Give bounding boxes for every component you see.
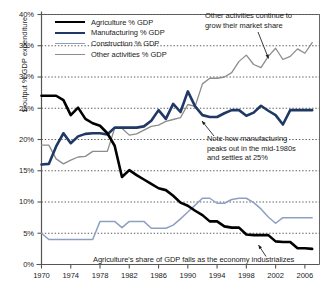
y-axis-tick-label: 40% [8, 10, 34, 19]
x-axis-tick-label: 1986 [144, 271, 174, 280]
y-axis-tick-label: 0% [8, 260, 34, 269]
annotation-manu-line3: and settles at 25% [207, 153, 296, 163]
x-axis-tick-label: 2006 [290, 271, 320, 280]
annotation-agri-line1: Agriculture's share of GDP falls as the … [93, 255, 294, 265]
x-axis-tick-label: 1970 [27, 271, 57, 280]
legend-item-other: Other activities % GDP [55, 49, 167, 60]
annotation-manufacturing-peak: Note how manufacturing peaks out in the … [207, 134, 296, 163]
y-axis-tick-label: 35% [8, 41, 34, 50]
annotation-manu-line2: peaks out in the mid-1980s [207, 144, 296, 154]
annotation-other-growth: Other activities continue to grow their … [205, 11, 292, 30]
legend-label-manufacturing: Manufacturing % GDP [91, 28, 165, 37]
y-axis-tick-label: 15% [8, 166, 34, 175]
y-axis-tick-label: 30% [8, 72, 34, 81]
legend-label-other: Other activities % GDP [91, 50, 167, 59]
y-axis-tick-label: 20% [8, 135, 34, 144]
y-axis-tick-label: 25% [8, 104, 34, 113]
legend-item-agriculture: Agriculture % GDP [55, 17, 167, 28]
legend-label-agriculture: Agriculture % GDP [91, 18, 153, 27]
y-axis-tick-label: 10% [8, 197, 34, 206]
chart-container: $ output % GDP expenditure Agriculture %… [0, 0, 328, 293]
x-axis-tick-label: 1994 [202, 271, 232, 280]
legend-swatch-other [55, 54, 85, 55]
legend-swatch-manufacturing [55, 32, 85, 34]
annotation-other-line1: Other activities continue to [205, 11, 292, 21]
x-axis-tick-label: 1974 [56, 271, 86, 280]
x-axis-tick-label: 1990 [173, 271, 203, 280]
annotation-manu-line1: Note how manufacturing [207, 134, 296, 144]
x-axis-tick-label: 2002 [261, 271, 291, 280]
x-axis-tick-label: 1998 [231, 271, 261, 280]
annotation-other-line2: grow their market share [205, 21, 292, 31]
annotation-agriculture-fall: Agriculture's share of GDP falls as the … [93, 255, 294, 265]
chart-legend: Agriculture % GDP Manufacturing % GDP Co… [55, 17, 167, 59]
legend-item-manufacturing: Manufacturing % GDP [55, 28, 167, 39]
legend-swatch-agriculture [55, 21, 85, 23]
y-axis-tick-label: 5% [8, 229, 34, 238]
legend-label-construction: Construction % GDP [91, 39, 159, 48]
legend-item-construction: Construction % GDP [55, 38, 167, 49]
x-axis-tick-label: 1982 [114, 271, 144, 280]
legend-swatch-construction [55, 43, 85, 44]
x-axis-tick-label: 1978 [85, 271, 115, 280]
